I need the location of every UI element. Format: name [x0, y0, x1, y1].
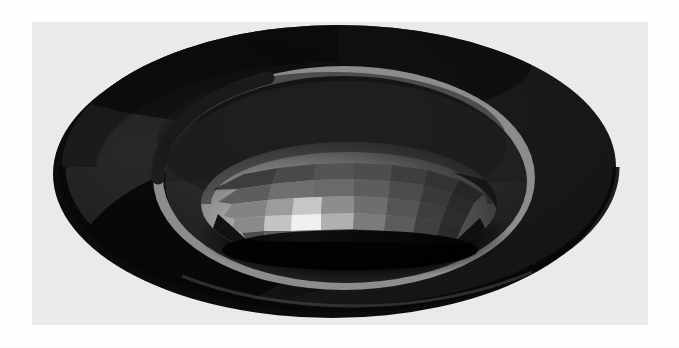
render-panel	[32, 22, 648, 325]
torus-scene	[32, 22, 648, 325]
render-viewer	[0, 0, 679, 348]
sphere-contact-shadow	[222, 230, 478, 270]
